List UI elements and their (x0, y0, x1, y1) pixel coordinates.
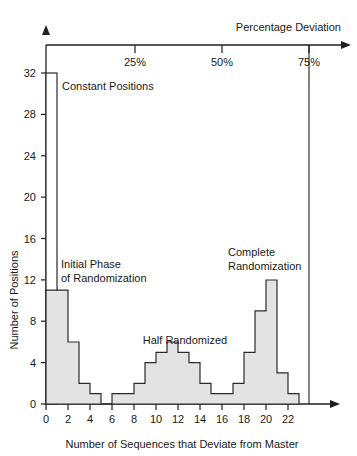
top-axis-ticks (135, 45, 309, 53)
x-tick-label: 20 (260, 413, 272, 425)
x-tick-label: 0 (43, 413, 49, 425)
annotation-complete-randomization-line-2: Randomization (228, 260, 301, 272)
x-axis-arrowhead (330, 400, 340, 408)
x-tick-label: 8 (131, 413, 137, 425)
annotation-initial-phase-line-1: Initial Phase (61, 258, 121, 270)
y-axis-arrowhead (42, 25, 50, 35)
histogram-bars (46, 73, 299, 404)
top-axis-arrowhead (341, 41, 351, 49)
y-tick-labels: 0 4 8 12 16 20 24 28 32 (24, 67, 36, 410)
x-tick-label: 4 (87, 413, 93, 425)
annotation-constant-positions: Constant Positions (62, 80, 154, 92)
x-tick-label: 18 (238, 413, 250, 425)
y-tick-label: 4 (30, 357, 36, 369)
y-tick-label: 16 (24, 233, 36, 245)
y-tick-label: 28 (24, 108, 36, 120)
x-tick-labels: 0 2 4 6 8 10 12 14 16 18 20 22 (43, 413, 294, 425)
x-tick-label: 12 (172, 413, 184, 425)
top-axis-title: Percentage Deviation (236, 21, 341, 33)
x-tick-label: 14 (194, 413, 206, 425)
percentage-tick-label: 25% (124, 56, 146, 68)
y-tick-label: 20 (24, 191, 36, 203)
annotation-half-randomized: Half Randomized (143, 334, 227, 346)
x-tick-label: 2 (65, 413, 71, 425)
y-tick-label: 12 (24, 274, 36, 286)
y-tick-label: 32 (24, 67, 36, 79)
histogram-figure: 0 4 8 12 16 20 24 28 32 0 2 4 6 8 10 12 … (0, 0, 357, 456)
x-tick-label: 22 (282, 413, 294, 425)
x-tick-label: 16 (216, 413, 228, 425)
chart-canvas: 0 4 8 12 16 20 24 28 32 0 2 4 6 8 10 12 … (0, 0, 357, 456)
percentage-tick-label: 50% (211, 56, 233, 68)
annotation-complete-randomization-line-1: Complete (228, 246, 275, 258)
y-tick-label: 24 (24, 150, 36, 162)
y-tick-label: 0 (30, 398, 36, 410)
x-axis-title: Number of Sequences that Deviate from Ma… (66, 438, 299, 450)
top-percentage-axis (46, 41, 351, 49)
x-tick-label: 6 (109, 413, 115, 425)
x-axis-ticks (46, 404, 288, 410)
annotation-complete-randomization: Complete Randomization (228, 246, 301, 272)
top-axis-tick-labels: 25% 50% 75% (124, 56, 320, 68)
percentage-tick-label: 75% (298, 56, 320, 68)
y-axis-ticks (41, 73, 46, 404)
annotation-initial-phase-line-2: of Randomization (61, 272, 147, 284)
y-tick-label: 8 (30, 315, 36, 327)
y-axis-title: Number of Positions (8, 250, 20, 350)
x-tick-label: 10 (150, 413, 162, 425)
annotation-initial-phase-of-randomization: Initial Phase of Randomization (61, 258, 147, 284)
